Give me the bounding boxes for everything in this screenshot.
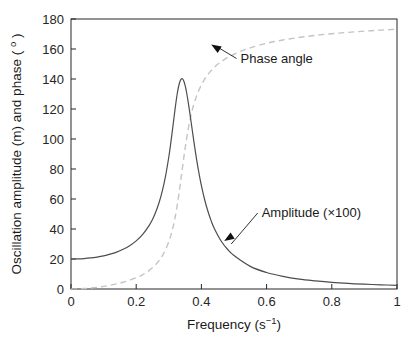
x-tick-label: 0 [67,294,74,309]
y-tick-label: 180 [42,12,64,27]
x-tick-label: 0.6 [258,294,276,309]
y-tick-label: 20 [50,252,64,267]
y-tick-label: 120 [42,102,64,117]
y-tick-label: 80 [50,162,64,177]
x-tick-label: 0.8 [323,294,341,309]
y-tick-label: 0 [57,282,64,297]
x-tick-label: 0.4 [192,294,210,309]
y-axis-title: Oscillation amplitude (m) and phase ( o … [7,34,24,275]
annotation-label: Phase angle [241,51,313,66]
resonance-chart: 020406080100120140160180 00.20.40.60.81 … [0,0,414,344]
plot-frame [71,19,397,289]
y-tick-label: 100 [42,132,64,147]
x-axis-tick-labels: 00.20.40.60.81 [67,294,400,309]
y-tick-label: 60 [50,192,64,207]
y-tick-label: 160 [42,42,64,57]
y-tick-label: 140 [42,72,64,87]
annotation-label: Amplitude (×100) [262,205,361,220]
x-tick-label: 1 [393,294,400,309]
y-axis-tick-labels: 020406080100120140160180 [42,12,64,297]
x-tick-label: 0.2 [127,294,145,309]
y-tick-label: 40 [50,222,64,237]
x-axis-title: Frequency (s−1) [187,315,281,332]
chart-figure: 020406080100120140160180 00.20.40.60.81 … [0,0,414,344]
